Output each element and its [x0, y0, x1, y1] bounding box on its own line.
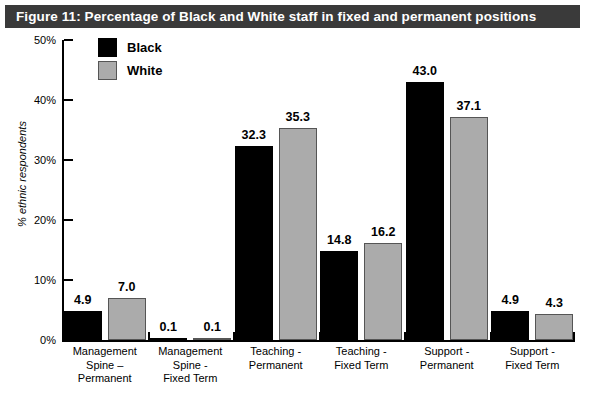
bar-value-label: 32.3: [229, 129, 279, 142]
bar-value-label: 4.9: [58, 294, 108, 307]
white-swatch-icon: [98, 61, 117, 80]
bar-white: [279, 128, 317, 340]
category-label: Support - Permanent: [404, 345, 490, 372]
y-axis-tick-label: 20%: [18, 214, 56, 226]
legend-item-black: Black: [98, 38, 218, 57]
category-label: Teaching - Permanent: [233, 345, 319, 372]
y-axis-tick-label: 0%: [18, 334, 56, 346]
black-swatch-icon: [98, 38, 117, 57]
bar-white: [364, 243, 402, 340]
bar-value-label: 4.9: [485, 294, 535, 307]
bar-value-label: 0.1: [143, 321, 193, 334]
bar-white: [193, 338, 231, 340]
y-axis-tick-label: 40%: [18, 94, 56, 106]
bar-value-label: 35.3: [273, 111, 323, 124]
category-label: Management Spine - Fixed Term: [148, 345, 234, 386]
bar-black: [320, 251, 358, 340]
category-label: Teaching - Fixed Term: [319, 345, 405, 372]
bar-white: [108, 298, 146, 340]
y-axis-tick: [64, 219, 73, 221]
bar-black: [491, 311, 529, 340]
y-axis-tick-label: 10%: [18, 274, 56, 286]
bar-white: [535, 314, 573, 340]
bar-value-label: 4.3: [529, 297, 579, 310]
legend-label-black: Black: [127, 40, 162, 55]
figure-title-banner: Figure 11: Percentage of Black and White…: [5, 5, 580, 28]
bar-value-label: 14.8: [314, 234, 364, 247]
y-axis-tick-label: 50%: [18, 34, 56, 46]
page-title: Figure 11: Percentage of Black and White…: [5, 9, 536, 24]
bar-black: [406, 82, 444, 340]
bar-value-label: 7.0: [102, 281, 152, 294]
bar-white: [450, 117, 488, 340]
x-axis-tick: [573, 332, 575, 341]
y-axis-tick: [64, 99, 73, 101]
y-axis-tick: [64, 39, 73, 41]
bar-value-label: 16.2: [358, 226, 408, 239]
y-axis-tick: [64, 279, 73, 281]
chart-container: % ethnic respondents 0%10%20%30%40%50% 4…: [0, 28, 589, 393]
category-label: Management Spine – Permanent: [62, 345, 148, 386]
y-axis-tick-label: 30%: [18, 154, 56, 166]
legend-label-white: White: [127, 63, 162, 78]
bar-value-label: 37.1: [444, 100, 494, 113]
bar-black: [149, 338, 187, 340]
bar-value-label: 43.0: [400, 65, 450, 78]
bar-black: [235, 146, 273, 340]
chart-legend: Black White: [98, 38, 218, 84]
y-axis-tick: [64, 159, 73, 161]
bar-value-label: 0.1: [187, 321, 237, 334]
plot-area: 0%10%20%30%40%50% 4.97.00.10.132.335.314…: [62, 40, 575, 340]
bar-black: [64, 311, 102, 340]
category-label: Support - Fixed Term: [490, 345, 576, 372]
legend-item-white: White: [98, 61, 218, 80]
